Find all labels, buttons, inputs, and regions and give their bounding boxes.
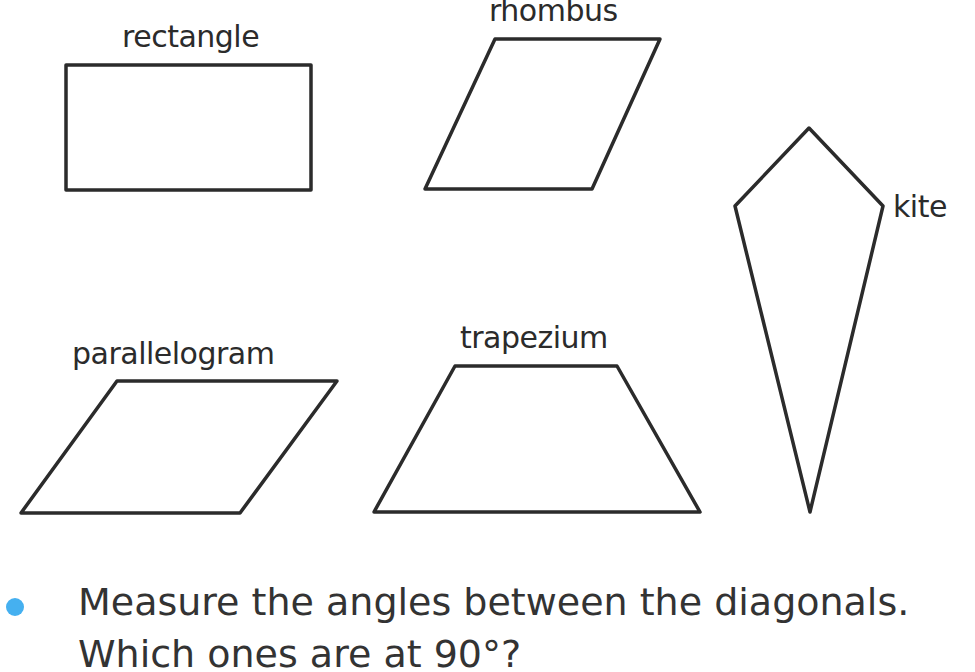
rhombus-shape <box>425 39 660 189</box>
bullet-icon <box>6 598 24 616</box>
trapezium-shape <box>374 366 700 512</box>
rectangle-shape <box>66 65 311 190</box>
question-2: Which ones are at 90°? <box>78 632 521 672</box>
kite-shape <box>735 128 883 512</box>
parallelogram-shape <box>21 381 337 513</box>
question-1: Measure the angles between the diagonals… <box>78 580 909 624</box>
rectangle-label: rectangle <box>122 19 259 54</box>
parallelogram-label: parallelogram <box>72 336 274 371</box>
kite-label: kite <box>893 189 947 224</box>
rhombus-label: rhombus <box>489 0 618 28</box>
trapezium-label: trapezium <box>460 320 608 355</box>
